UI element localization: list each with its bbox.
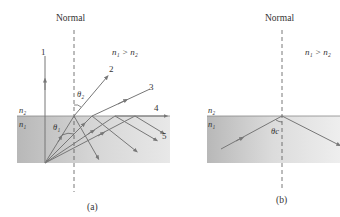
condition-label-b: n₁ > n₂ xyxy=(305,47,331,57)
ray-label-5: 5 xyxy=(162,131,167,141)
theta2-label: θ₂ xyxy=(77,89,84,99)
theta2-arc xyxy=(74,105,81,107)
normal-label-a: Normal xyxy=(56,13,85,23)
normal-label-b: Normal xyxy=(265,13,294,23)
ray-label-4: 4 xyxy=(154,103,159,113)
theta1-label: θ₁ xyxy=(53,122,60,132)
panel-b: Normal n₁ > n₂ n₂ n₁ θc (b) xyxy=(207,13,340,206)
condition-label-a: n₁ > n₂ xyxy=(112,47,138,57)
caption-b: (b) xyxy=(276,195,287,206)
panel-a: Normal n₁ > n₂ n₂ n₁ θ₁ θ₂ 1 2 3 4 5 (a) xyxy=(17,13,170,213)
caption-a: (a) xyxy=(87,202,98,213)
ray-label-2: 2 xyxy=(109,64,114,74)
n2-label-b: n₂ xyxy=(208,105,215,115)
n1-label-a: n₁ xyxy=(19,119,26,129)
total-internal-reflection-diagram: Normal n₁ > n₂ n₂ n₁ θ₁ θ₂ 1 2 3 4 5 (a)… xyxy=(0,0,340,217)
medium-n1-b xyxy=(207,116,340,163)
thetac-label: θc xyxy=(271,126,279,136)
ray-label-1: 1 xyxy=(41,47,46,57)
n2-label-a: n₂ xyxy=(19,105,26,115)
ray-label-3: 3 xyxy=(149,82,154,92)
n1-label-b: n₁ xyxy=(208,119,215,129)
